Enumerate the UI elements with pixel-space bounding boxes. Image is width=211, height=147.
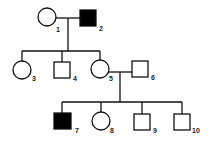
label-1: 1 <box>56 26 60 33</box>
label-6: 6 <box>151 74 155 81</box>
individual-1-female <box>38 8 56 26</box>
label-8: 8 <box>110 127 114 134</box>
individual-4-male <box>54 62 70 78</box>
individual-8-female <box>92 112 110 130</box>
individual-5-female <box>91 60 109 78</box>
individual-3-female <box>13 61 31 79</box>
pedigree-chart <box>0 0 211 147</box>
label-9: 9 <box>153 127 157 134</box>
label-5: 5 <box>109 75 113 82</box>
individual-6-male <box>132 61 148 77</box>
label-2: 2 <box>99 25 103 32</box>
individual-2-male-affected <box>80 10 96 26</box>
label-4: 4 <box>73 75 77 82</box>
individual-10-male <box>174 114 190 130</box>
individual-9-male <box>134 114 150 130</box>
label-3: 3 <box>32 75 36 82</box>
label-10: 10 <box>192 127 200 134</box>
individual-7-male-affected <box>54 113 71 129</box>
label-7: 7 <box>75 127 79 134</box>
